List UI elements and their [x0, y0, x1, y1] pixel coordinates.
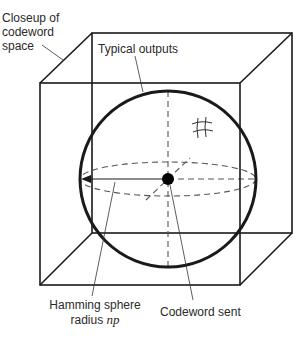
radius-math: np [107, 312, 121, 327]
grid-glyph-icon [192, 117, 213, 138]
radius-arrow [81, 175, 168, 183]
hamming-radius-label: radius np [70, 312, 120, 327]
closeup-leader [42, 45, 63, 60]
cube-edge-top-left [40, 33, 92, 83]
codeword-dot [162, 173, 174, 185]
typical-outputs-leader [135, 56, 143, 92]
arrowhead-icon [81, 175, 91, 183]
codeword-sent-label: Codeword sent [160, 305, 241, 319]
cube-edge-bottom-right [240, 233, 292, 285]
cube-edge-top-right [240, 33, 292, 83]
hamming-sphere-label: Hamming sphere [49, 298, 141, 312]
radius-text: radius [70, 313, 106, 327]
closeup-label-line2: codeword [2, 25, 54, 39]
typical-outputs-label: Typical outputs [98, 42, 178, 56]
codeword-sent-leader [170, 185, 193, 300]
codeword-space-diagram: Closeup of codeword space Typical output… [0, 0, 307, 338]
cube-edge-bottom-left [40, 233, 92, 285]
closeup-label-line3: space [2, 39, 34, 53]
hamming-leader [92, 182, 115, 296]
closeup-label-line1: Closeup of [2, 11, 60, 25]
cube-back-face [92, 33, 292, 233]
